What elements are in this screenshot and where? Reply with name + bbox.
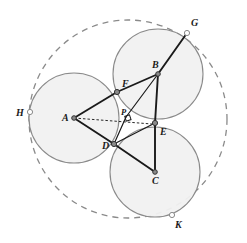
label-K: K <box>174 219 183 230</box>
label-D: D <box>101 140 109 151</box>
geometry-figure: ABCDEFPGHK <box>0 0 247 243</box>
point-C <box>153 170 158 175</box>
point-D <box>111 141 116 146</box>
label-E: E <box>159 126 167 137</box>
label-A: A <box>61 112 69 123</box>
point-E <box>152 120 157 125</box>
circles-group <box>29 29 203 217</box>
point-H <box>27 109 32 114</box>
point-F <box>114 89 119 94</box>
label-C: C <box>152 175 159 186</box>
point-K <box>169 212 174 217</box>
point-A <box>72 116 77 121</box>
point-B <box>156 72 161 77</box>
label-B: B <box>151 59 159 70</box>
point-G <box>184 30 189 35</box>
label-G: G <box>191 17 199 28</box>
geometry-canvas: ABCDEFPGHK <box>0 0 247 243</box>
label-P: P <box>121 107 127 117</box>
label-F: F <box>121 78 129 89</box>
label-H: H <box>15 107 25 118</box>
